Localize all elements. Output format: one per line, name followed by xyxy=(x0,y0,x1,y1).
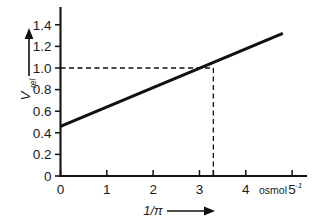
y-tick-label: 0 xyxy=(44,169,52,184)
x-tick-label: 1 xyxy=(103,182,111,197)
x-tick-label: 0 xyxy=(57,182,65,197)
x-axis-title-text: 1/π xyxy=(143,203,163,218)
chart-figure: 00.20.40.60.81.01.21.4 012345 V rel 1/π … xyxy=(0,0,316,223)
x-axis-unit-exponent: -1 xyxy=(295,181,302,190)
y-tick-label: 1.0 xyxy=(33,61,52,76)
y-axis-title-text: V xyxy=(18,90,33,100)
x-axis-unit-text: osmol xyxy=(259,184,287,196)
y-tick-label: 1.2 xyxy=(33,39,52,54)
x-tick-label: 3 xyxy=(196,182,204,197)
x-tick-label: 4 xyxy=(242,182,250,197)
y-tick-label: 1.4 xyxy=(33,18,52,33)
y-tick-label: 0.2 xyxy=(33,147,52,162)
chart-canvas: 00.20.40.60.81.01.21.4 012345 V rel 1/π … xyxy=(0,0,316,223)
y-axis-title-subscript: rel xyxy=(28,77,38,88)
y-tick-label: 0.4 xyxy=(33,126,52,141)
x-tick-label: 2 xyxy=(149,182,157,197)
y-tick-label: 0.6 xyxy=(33,104,52,119)
